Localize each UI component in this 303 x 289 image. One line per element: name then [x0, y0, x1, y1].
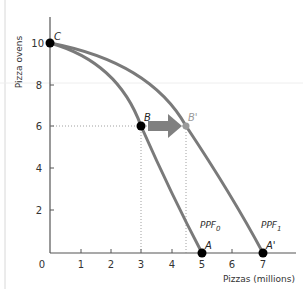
ppf0-label: PPF0 [200, 220, 221, 233]
x-tick-label: 1 [78, 259, 84, 270]
label-b-prime: B' [188, 112, 198, 123]
point-b-prime [183, 123, 190, 130]
y-tick-label: 2 [36, 205, 42, 216]
label-c: C [54, 31, 61, 42]
label-a-prime: A' [265, 240, 276, 251]
ppf-chart: 2 4 6 8 10 0 1 2 3 4 5 6 7 Pizza ovens P… [0, 0, 303, 289]
x-axis-title: Pizzas (millions) [223, 274, 295, 284]
ppf0-curve [50, 43, 202, 253]
y-tick-label: 6 [36, 121, 42, 132]
label-a: A [204, 240, 212, 251]
shift-arrow [148, 114, 182, 138]
x-tick-label: 5 [199, 259, 205, 270]
y-tick-label: 4 [36, 163, 42, 174]
x-tick-label: 2 [108, 259, 114, 270]
x-tick-label: 7 [260, 259, 266, 270]
ppf1-label: PPF1 [261, 220, 282, 233]
y-axis-title: Pizza ovens [14, 36, 24, 89]
y-tick-label: 10 [31, 38, 44, 49]
x-tick-label: 0 [39, 259, 45, 270]
label-b: B [144, 112, 151, 123]
guide-lines [50, 126, 186, 253]
x-ticks: 0 1 2 3 4 5 6 7 [39, 249, 266, 270]
ppf1-curve [50, 43, 263, 253]
x-tick-label: 4 [169, 259, 175, 270]
y-tick-label: 8 [36, 80, 42, 91]
x-tick-label: 3 [138, 259, 144, 270]
x-tick-label: 6 [229, 259, 235, 270]
